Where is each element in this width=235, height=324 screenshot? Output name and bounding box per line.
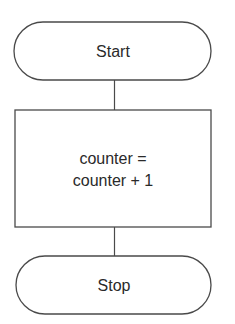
flowchart-canvas: Start counter = counter + 1 Stop [0, 0, 235, 324]
process-box-shape [15, 110, 211, 227]
start-terminal-node: Start [14, 22, 211, 80]
stop-terminal-node: Stop [16, 256, 211, 314]
process-node: counter = counter + 1 [15, 110, 211, 227]
stop-label: Stop [98, 277, 131, 294]
process-label-line-1: counter = [79, 150, 146, 167]
start-label: Start [96, 43, 130, 60]
process-label-line-2: counter + 1 [73, 172, 154, 189]
